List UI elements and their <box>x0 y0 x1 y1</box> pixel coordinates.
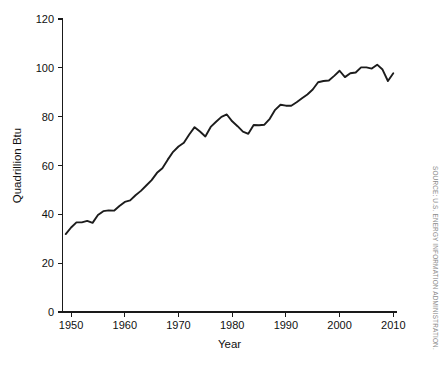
data-series-line <box>66 65 394 234</box>
y-tick-label: 80 <box>42 111 54 123</box>
x-tick-label: 1970 <box>166 319 190 331</box>
y-tick-label: 120 <box>36 13 54 25</box>
x-tick-label: 1950 <box>59 319 83 331</box>
chart-figure: 020406080100120 195019601970198019902000… <box>0 0 443 371</box>
y-tick-label: 0 <box>48 306 54 318</box>
x-axis-title: Year <box>218 338 241 350</box>
y-axis-title: Quadrillion Btu <box>11 128 23 203</box>
y-tick-label: 40 <box>42 208 54 220</box>
x-tick-label: 2000 <box>327 319 351 331</box>
y-tick-label: 20 <box>42 257 54 269</box>
x-tick-label: 2010 <box>381 319 405 331</box>
x-tick-label: 1990 <box>274 319 298 331</box>
y-tick-label: 100 <box>36 62 54 74</box>
source-attribution: SOURCE: U.S. ENERGY INFORMATION ADMINIST… <box>428 166 442 366</box>
x-tick-label: 1960 <box>113 319 137 331</box>
x-axis-ticks: 1950196019701980199020002010 <box>59 312 406 331</box>
y-axis-ticks: 020406080100120 <box>36 13 63 318</box>
y-tick-label: 60 <box>42 160 54 172</box>
line-chart: 020406080100120 195019601970198019902000… <box>0 0 443 371</box>
x-tick-label: 1980 <box>220 319 244 331</box>
